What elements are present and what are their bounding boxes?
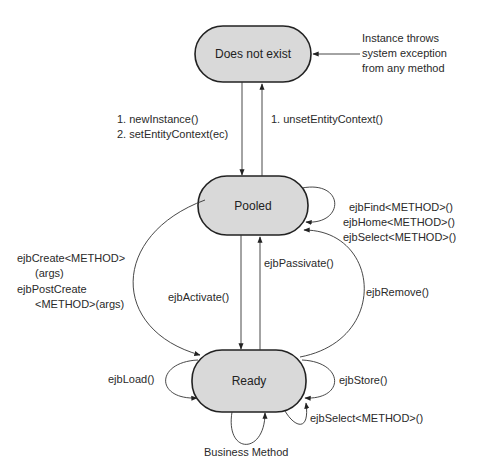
exception-label: Instance throws system exception from an… — [362, 32, 450, 74]
ejb-store-label: ejbStore() — [339, 374, 387, 386]
state-label: Pooled — [234, 199, 271, 213]
ready-select-label: ejbSelect<METHOD>() — [310, 412, 423, 424]
state-label: Ready — [232, 374, 267, 388]
business-method-label: Business Method — [204, 446, 288, 458]
ejb-create-arrow — [133, 200, 205, 355]
pooled-self-label: ejbFind<METHOD>() ejbHome<METHOD>() ejbS… — [343, 201, 458, 243]
state-label: Does not exist — [215, 47, 292, 61]
ejb-remove-arrow — [300, 230, 364, 357]
state-does-not-exist: Does not exist — [195, 26, 311, 82]
lifecycle-diagram: Does not exist Pooled Ready Instance thr… — [0, 0, 478, 466]
state-ready: Ready — [192, 350, 306, 412]
unset-context-label: 1. unsetEntityContext() — [271, 113, 383, 125]
state-pooled: Pooled — [198, 176, 308, 235]
create-instance-label: 1. newInstance() 2. setEntityContext(ec) — [117, 113, 228, 140]
business-method-loop — [231, 412, 265, 444]
ejb-remove-label: ejbRemove() — [366, 286, 429, 298]
ejb-activate-label: ejbActivate() — [168, 291, 229, 303]
ejb-create-label: ejbCreate<METHOD> (args) ejbPostCreate <… — [17, 252, 128, 310]
ejb-load-label: ejbLoad() — [108, 373, 154, 385]
ejb-store-loop — [302, 360, 335, 398]
ejb-passivate-label: ejbPassivate() — [264, 257, 334, 269]
